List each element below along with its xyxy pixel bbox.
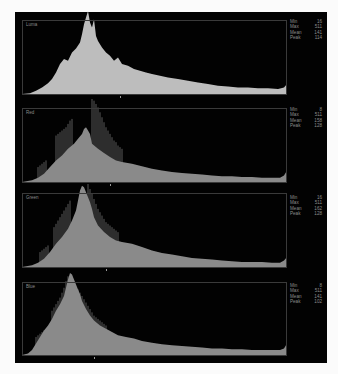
blue-plot-frame (22, 282, 287, 356)
stat-label: Peak (290, 123, 300, 128)
blue-histogram: Blue (22, 282, 287, 356)
red-stats: Min8 Max511 Mean158 Peak128 (290, 107, 322, 129)
blue-label: Blue (26, 284, 35, 289)
green-mean-marker (106, 269, 107, 271)
stat-value: 128 (314, 211, 322, 216)
green-plot-frame (22, 193, 287, 268)
red-mean-marker (110, 184, 111, 186)
green-histogram: Green (22, 193, 287, 268)
blue-mean-marker (94, 357, 95, 359)
stat-value: 128 (314, 123, 322, 128)
stat-label: Peak (290, 211, 300, 216)
stat-value: 114 (315, 35, 322, 40)
red-label: Red (26, 110, 34, 115)
luma-stats: Min16 Max511 Mean141 Peak114 (290, 19, 322, 41)
stat-value: 102 (314, 299, 322, 304)
stat-label: Peak (290, 299, 300, 304)
luma-label: Luma (26, 22, 37, 27)
luma-mean-marker (120, 96, 121, 98)
luma-histogram: Luma (22, 20, 287, 95)
luma-plot-frame (22, 20, 287, 95)
red-histogram: Red (22, 108, 287, 183)
green-stats: Min16 Max511 Mean162 Peak128 (290, 195, 322, 217)
red-plot-frame (22, 108, 287, 183)
stat-label: Peak (290, 35, 300, 40)
blue-stats: Min8 Max511 Mean141 Peak102 (290, 283, 322, 305)
green-label: Green (26, 195, 39, 200)
histogram-panel: Luma Min16 Max511 Mean141 Peak114 Red Mi… (15, 12, 327, 363)
